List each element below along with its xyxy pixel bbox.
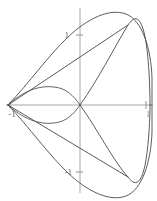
- tick-marks-group: [10, 35, 146, 172]
- curve-inner-lens-lower: [8, 105, 80, 123]
- y-axis-label-negative-one: -1: [65, 167, 73, 177]
- curve-inner-arc-right-lower: [80, 105, 150, 183]
- curve-inner-lens-upper: [8, 87, 80, 105]
- x-axis-label-positive-one: 1: [146, 109, 151, 119]
- y-axis-label-positive-one: 1: [65, 30, 70, 40]
- plot-figure: 1 -1 -1 1: [0, 0, 157, 201]
- x-axis-label-negative-one: -1: [8, 109, 16, 119]
- curve-inner-arc-right-upper: [80, 19, 150, 105]
- plot-canvas: 1 -1 -1 1: [0, 0, 157, 201]
- axes-group: [6, 8, 152, 193]
